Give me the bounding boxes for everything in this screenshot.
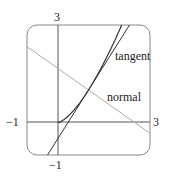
x-min-label: −1 (6, 115, 19, 129)
y-min-label: −1 (49, 158, 62, 172)
x-max-label: 3 (153, 115, 159, 129)
curve-line (58, 24, 123, 123)
tangent-label: tangent (115, 49, 151, 63)
chart: 3 −1 −1 3 tangent normal (0, 0, 170, 176)
normal-label: normal (107, 90, 142, 104)
y-max-label: 3 (54, 10, 60, 24)
